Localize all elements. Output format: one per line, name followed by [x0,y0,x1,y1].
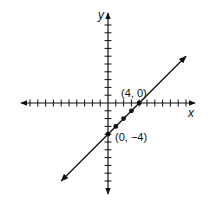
x-axis-label: x [187,106,195,120]
data-point [129,108,134,113]
coordinate-plane: y x (4, 0) (0, −4) [0,0,208,201]
point-label-y-intercept: (0, −4) [115,131,147,143]
point-label-x-intercept: (4, 0) [121,87,147,99]
data-point [106,132,111,137]
y-axis-label: y [97,8,105,22]
data-point [113,124,118,129]
data-point [137,101,142,106]
data-point [121,116,126,121]
